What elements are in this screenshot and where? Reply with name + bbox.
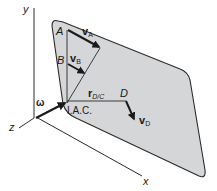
z-axis-label: z bbox=[8, 121, 15, 133]
iac-label: I.A.C. bbox=[67, 105, 92, 116]
point-d-label: D bbox=[120, 87, 128, 99]
point-b-label: B bbox=[57, 54, 64, 66]
vA-label: vA bbox=[82, 25, 93, 38]
point-a-label: A bbox=[55, 25, 63, 37]
x-axis-label: x bbox=[142, 175, 149, 187]
omega-label: ω bbox=[36, 97, 45, 108]
z-axis-line bbox=[19, 118, 34, 128]
iac-diagram: y z x A B D I.A.C. vA vB vD rD/C ω bbox=[0, 0, 217, 191]
rigid-plate bbox=[52, 21, 205, 177]
y-axis-label: y bbox=[22, 3, 30, 15]
